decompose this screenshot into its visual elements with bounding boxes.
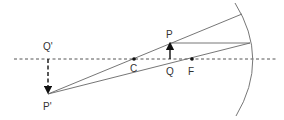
label-focus: F — [188, 66, 194, 77]
label-object-tip: P — [166, 29, 173, 40]
center-of-curvature-dot — [132, 57, 136, 61]
label-image-base: Q' — [43, 41, 53, 52]
focus-dot — [190, 57, 194, 61]
ray-reflected-through-focus — [48, 43, 250, 94]
label-image-tip: P' — [43, 101, 52, 112]
ray-through-center — [48, 14, 242, 94]
label-object-base: Q — [166, 66, 174, 77]
ray-diagram: Q' P' C Q F P — [0, 0, 284, 120]
concave-mirror — [235, 3, 253, 116]
label-center-of-curvature: C — [130, 63, 137, 74]
